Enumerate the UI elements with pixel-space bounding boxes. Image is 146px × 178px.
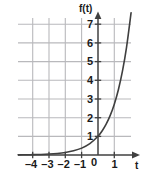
y-axis-label: f(t)	[79, 4, 92, 14]
y-tick-label-5: 5	[87, 56, 93, 67]
y-tick-label-3: 3	[87, 94, 93, 105]
plot-canvas	[0, 0, 146, 178]
y-tick-label-4: 4	[87, 75, 93, 86]
x-axis-label: t	[135, 161, 138, 171]
exponential-function-graph: 7 6 5 4 3 2 1 –4 –3 –2 –1 0 1 f(t) t	[0, 0, 146, 178]
x-tick-label-1: 1	[112, 159, 118, 170]
y-tick-label-1: 1	[87, 131, 93, 142]
y-tick-label-2: 2	[87, 113, 93, 124]
y-tick-label-6: 6	[87, 38, 93, 49]
x-tick-label-neg1: –1	[74, 159, 86, 170]
x-tick-label-neg4: –4	[25, 159, 37, 170]
x-tick-label-neg3: –3	[41, 159, 53, 170]
x-tick-label-0: 0	[91, 157, 97, 168]
grid-lines	[18, 18, 131, 155]
x-tick-label-neg2: –2	[58, 159, 70, 170]
y-tick-label-7: 7	[87, 19, 93, 30]
